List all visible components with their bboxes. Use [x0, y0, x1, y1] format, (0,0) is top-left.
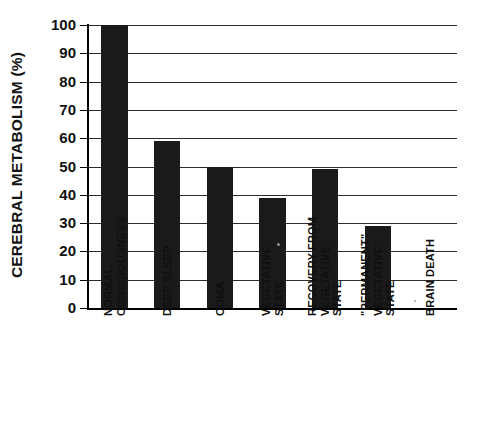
scan-speck: [277, 243, 280, 246]
y-axis-tick: [80, 223, 87, 224]
scan-speck: [414, 300, 416, 302]
y-axis-tick: [80, 167, 87, 168]
gridline: [88, 53, 457, 54]
y-axis-tick: [80, 25, 87, 26]
gridline: [88, 25, 457, 26]
y-axis-tick-label: 40: [34, 187, 76, 202]
y-axis-tick-label: 50: [34, 159, 76, 174]
y-axis-tick: [80, 53, 87, 54]
y-axis-tick: [80, 195, 87, 196]
gridline: [88, 167, 457, 168]
y-axis-tick-labels: 1009080706050403020100: [28, 0, 76, 447]
x-axis-label-slot: NORMAL CONSCIOUSNESS: [88, 312, 141, 447]
y-axis-tick: [80, 82, 87, 83]
bar-chart-figure: CEREBRAL METABOLISM (%) 1009080706050403…: [0, 0, 477, 447]
y-axis-title-text: CEREBRAL METABOLISM (%): [8, 52, 26, 278]
gridline: [88, 138, 457, 139]
y-axis-tick-label: 70: [34, 102, 76, 117]
y-axis-tick: [80, 110, 87, 111]
x-axis-label: BRAIN DEATH: [424, 239, 437, 316]
y-axis-tick: [80, 138, 87, 139]
y-axis-tick-label: 60: [34, 130, 76, 145]
y-axis-tick: [80, 251, 87, 252]
y-axis-tick-label: 100: [34, 17, 76, 32]
x-axis-label: RECOVERY FROM VEGETATIVE STATE: [306, 217, 344, 316]
x-axis-label-slot: BRAIN DEATH: [404, 312, 457, 447]
gridline: [88, 195, 457, 196]
x-axis-label-slot: DEEP SLEEP: [141, 312, 194, 447]
y-axis-tick-label: 20: [34, 243, 76, 258]
x-axis-label: "PERMANENT" VEGETATIVE STATE: [359, 234, 397, 316]
y-axis-tick-label: 10: [34, 272, 76, 287]
gridline: [88, 82, 457, 83]
y-axis-tick-label: 90: [34, 45, 76, 60]
x-axis-label-slot: VEGETATIVE STATE: [246, 312, 299, 447]
x-axis-label-slot: "PERMANENT" VEGETATIVE STATE: [352, 312, 405, 447]
y-axis-tick: [80, 308, 87, 309]
x-axis-label: NORMAL CONSCIOUSNESS: [102, 217, 127, 316]
x-axis-label-slot: RECOVERY FROM VEGETATIVE STATE: [299, 312, 352, 447]
y-axis-tick-label: 30: [34, 215, 76, 230]
x-axis-label: DEEP SLEEP: [161, 245, 174, 316]
x-axis-label: VEGETATIVE STATE: [260, 246, 285, 316]
y-axis-tick-label: 0: [34, 300, 76, 315]
y-axis-tick-label: 80: [34, 74, 76, 89]
x-axis-label: COMA: [214, 282, 227, 316]
y-axis-tick: [80, 280, 87, 281]
gridline: [88, 110, 457, 111]
x-axis-label-slot: COMA: [193, 312, 246, 447]
x-axis-tick-labels: NORMAL CONSCIOUSNESSDEEP SLEEPCOMAVEGETA…: [88, 312, 457, 447]
